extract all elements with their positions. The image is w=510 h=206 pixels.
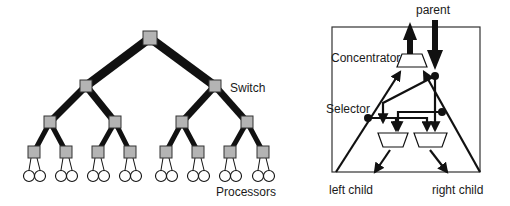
processor-link <box>37 158 40 170</box>
switch-node <box>192 146 204 158</box>
tree-edge <box>86 38 150 86</box>
right-selector-dot <box>438 108 446 116</box>
switch-label: Switch <box>230 81 265 95</box>
switch-node <box>92 146 104 158</box>
processor-link <box>258 158 260 170</box>
switch-node <box>80 80 92 92</box>
processor-link <box>69 158 72 170</box>
processor-node <box>253 171 264 182</box>
tree-edge <box>150 38 215 86</box>
processor-link <box>225 158 227 170</box>
switch-internals-diagram: Concentrator Selector parent left child … <box>326 3 483 197</box>
tree-edges <box>34 38 263 152</box>
processors-label: Processors <box>216 185 276 199</box>
processor-link <box>101 158 104 170</box>
switch-node <box>224 146 236 158</box>
parent-label: parent <box>416 3 451 17</box>
right-child-label: right child <box>432 183 483 197</box>
processor-node <box>56 171 67 182</box>
processor-node <box>220 171 231 182</box>
processor-link <box>93 158 95 170</box>
processor-node <box>188 171 199 182</box>
processor-link <box>193 158 195 170</box>
processor-node <box>264 171 275 182</box>
processor-link <box>201 158 204 170</box>
processor-node <box>156 171 167 182</box>
processor-link <box>61 158 63 170</box>
processor-links <box>29 158 269 170</box>
right-selector <box>414 133 447 147</box>
concentrator-label: Concentrator <box>331 51 400 65</box>
processor-node <box>199 171 210 182</box>
processor-node <box>88 171 99 182</box>
processor-node <box>167 171 178 182</box>
fat-tree-figure: Switch Processors <box>0 0 510 206</box>
left-selector <box>378 133 408 147</box>
switch-box <box>332 27 480 172</box>
processor-node <box>99 171 110 182</box>
processor-link <box>169 158 172 170</box>
switch-node <box>176 116 188 128</box>
processor-nodes <box>24 171 275 182</box>
processor-node <box>24 171 35 182</box>
switch-node <box>160 146 172 158</box>
switch-node <box>109 116 121 128</box>
processor-node <box>131 171 142 182</box>
processor-node <box>120 171 131 182</box>
selector-label: Selector <box>326 102 370 116</box>
parent-split-dot <box>431 72 439 80</box>
switch-node <box>44 116 56 128</box>
left-child-label: left child <box>329 183 373 197</box>
fat-tree-network <box>24 31 275 182</box>
processor-node <box>231 171 242 182</box>
processor-link <box>125 158 127 170</box>
switch-node <box>143 31 157 45</box>
switch-node <box>257 146 269 158</box>
switch-node <box>241 116 253 128</box>
switch-node <box>60 146 72 158</box>
switch-node <box>124 146 136 158</box>
processor-link <box>161 158 163 170</box>
switch-node <box>28 146 40 158</box>
processor-link <box>133 158 136 170</box>
processor-node <box>67 171 78 182</box>
processor-link <box>266 158 269 170</box>
concentrator <box>397 54 427 67</box>
processor-node <box>35 171 46 182</box>
processor-link <box>233 158 236 170</box>
switch-node <box>209 80 221 92</box>
processor-link <box>29 158 31 170</box>
